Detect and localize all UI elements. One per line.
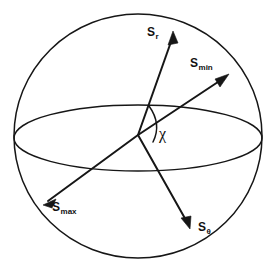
label-s-max-sub: max	[61, 207, 77, 216]
label-s-theta: Sθ	[198, 221, 210, 233]
figure-canvas	[0, 0, 274, 272]
label-s-theta-sub: θ	[207, 227, 211, 236]
arrow-head-s-r	[168, 31, 178, 45]
label-angle-chi: χ	[159, 126, 166, 142]
label-s-max-main: S	[52, 200, 60, 214]
sphere-vector-figure: Sr Smin Smax Sθ χ	[0, 0, 274, 272]
label-s-min-sub: min	[199, 63, 213, 72]
label-s-r-main: S	[147, 25, 155, 39]
arrow-head-s-min	[215, 74, 229, 87]
label-s-theta-main: S	[198, 220, 206, 234]
vector-line-s-min	[138, 78, 224, 135]
arrow-head-s-theta	[181, 216, 191, 229]
label-s-min-main: S	[190, 56, 198, 70]
label-s-min: Smin	[190, 57, 212, 69]
vector-line-s-max	[48, 135, 138, 201]
label-s-r-sub: r	[156, 32, 159, 41]
vector-line-s-r	[138, 39, 172, 135]
equatorial-ellipse	[14, 105, 262, 171]
label-s-r: Sr	[147, 26, 158, 38]
label-s-max: Smax	[52, 201, 76, 213]
vector-line-s-theta	[138, 135, 187, 222]
